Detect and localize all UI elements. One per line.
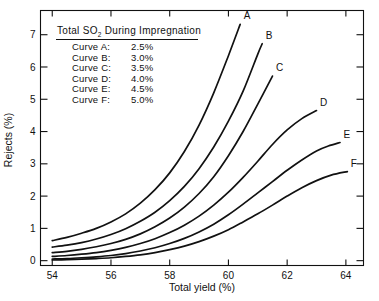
curve-label-d: D [320,97,327,108]
curve-label-b: B [266,30,273,41]
legend-curve-name: Curve B: [72,52,111,63]
legend-curve-name: Curve F: [72,94,110,105]
y-tick-label: 5 [30,94,36,105]
legend-curve-name: Curve D: [72,73,111,84]
x-tick-label: 62 [282,270,294,281]
y-tick-label: 0 [30,255,36,266]
legend-title: Total SO2 During Impregnation [57,25,201,38]
x-tick-label: 56 [105,270,117,281]
legend-curve-name: Curve E: [72,83,111,94]
legend-curve-value: 5.0% [131,94,154,105]
x-tick-label: 60 [223,270,235,281]
y-tick-label: 2 [30,191,36,202]
legend-curve-value: 4.0% [131,73,154,84]
y-tick-label: 4 [30,126,36,137]
curve-label-a: A [244,10,251,21]
curve-d [52,111,316,257]
legend-curve-value: 3.0% [131,52,154,63]
rejects-vs-total-yield-chart: 545658606264 01234567 ABCDEF Total SO2 D… [0,0,379,301]
x-axis-tick-labels: 545658606264 [47,270,352,281]
curve-e [52,143,340,260]
chart-container: 545658606264 01234567 ABCDEF Total SO2 D… [0,0,379,301]
curve-label-e: E [344,129,351,140]
legend-curve-value: 4.5% [131,83,154,94]
curve-label-c: C [276,62,283,73]
legend: Total SO2 During Impregnation Curve A:2.… [56,25,201,105]
y-tick-label: 1 [30,223,36,234]
y-tick-label: 6 [30,62,36,73]
x-tick-label: 58 [164,270,176,281]
y-tick-label: 3 [30,158,36,169]
legend-curve-value: 2.5% [131,41,154,52]
legend-curve-name: Curve A: [72,41,110,52]
legend-curve-name: Curve C: [72,62,111,73]
y-axis-tick-labels: 01234567 [30,29,36,266]
legend-rows: Curve A:2.5%Curve B:3.0%Curve C:3.5%Curv… [72,41,154,105]
y-axis-title: Rejects (%) [2,113,14,167]
y-tick-label: 7 [30,29,36,40]
x-tick-label: 54 [47,270,59,281]
legend-title-suffix: During Impregnation [102,25,201,36]
legend-title-text: Total SO [57,25,98,36]
legend-curve-value: 3.5% [131,62,154,73]
curve-end-labels: ABCDEF [244,10,357,168]
x-tick-label: 64 [340,270,352,281]
x-axis-title: Total yield (%) [169,281,235,293]
curve-label-f: F [351,158,357,169]
